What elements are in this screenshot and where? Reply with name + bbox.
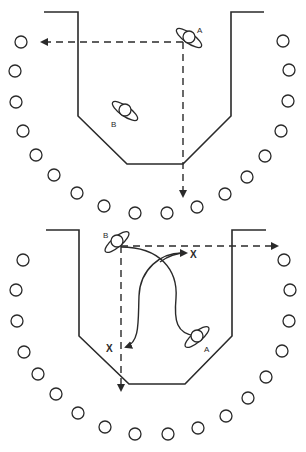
seat-icon — [220, 410, 232, 422]
seat-ring-bottom — [10, 254, 296, 440]
seat-icon — [242, 392, 254, 404]
seat-icon — [283, 64, 295, 76]
seat-ring-top — [9, 35, 295, 219]
seat-icon — [191, 201, 203, 213]
seat-icon — [283, 315, 295, 327]
seat-icon — [260, 371, 272, 383]
seat-icon — [48, 169, 60, 181]
seat-icon — [278, 254, 290, 266]
seat-icon — [10, 96, 22, 108]
target-x-label-right: X — [190, 249, 197, 260]
bottom-panel: B A X X — [10, 229, 296, 440]
top-panel: A B — [9, 12, 295, 219]
player-b-label: B — [103, 231, 108, 240]
seat-icon — [15, 36, 27, 48]
seat-icon — [192, 422, 204, 434]
seat-icon — [9, 65, 21, 77]
court-wall-bottom — [46, 230, 266, 384]
seat-icon — [99, 421, 111, 433]
seat-icon — [72, 407, 84, 419]
seat-icon — [17, 125, 29, 137]
seat-icon — [129, 207, 141, 219]
player-a-label: A — [197, 26, 203, 35]
seat-icon — [98, 200, 110, 212]
seat-icon — [276, 345, 288, 357]
diagram-canvas: A B — [0, 0, 306, 452]
court-wall-top — [44, 12, 264, 164]
seat-icon — [259, 150, 271, 162]
seat-icon — [10, 284, 22, 296]
seat-icon — [241, 171, 253, 183]
seat-icon — [275, 125, 287, 137]
seat-icon — [11, 315, 23, 327]
seat-icon — [129, 428, 141, 440]
seat-icon — [17, 254, 29, 266]
target-x-label-left: X — [106, 343, 113, 354]
seat-icon — [18, 346, 30, 358]
seat-icon — [282, 95, 294, 107]
player-b-label: B — [111, 120, 116, 129]
seat-icon — [161, 207, 173, 219]
seat-icon — [162, 428, 174, 440]
seat-icon — [284, 284, 296, 296]
seat-icon — [71, 187, 83, 199]
seat-icon — [277, 35, 289, 47]
seat-icon — [50, 388, 62, 400]
seat-icon — [219, 188, 231, 200]
seat-icon — [30, 149, 42, 161]
seat-icon — [32, 368, 44, 380]
player-a-label: A — [204, 345, 210, 354]
